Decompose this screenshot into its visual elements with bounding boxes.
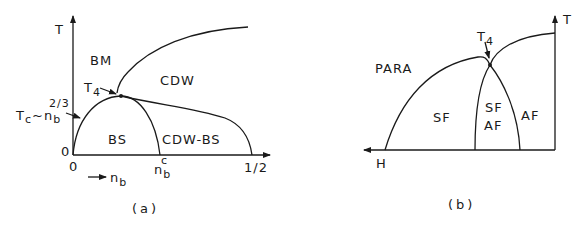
a-y-origin-label: 0 [61, 145, 70, 158]
a-region-cdw-bs: CDW-BS [162, 133, 221, 146]
a-caption: (a) [132, 202, 159, 215]
b-x-axis-label: H [376, 157, 387, 170]
a-region-bm: BM [90, 54, 112, 67]
a-region-cdw: CDW [160, 74, 195, 87]
b-tetracritical-label: T4 [477, 30, 494, 43]
a-tc-scaling-label: Tc~nb [16, 109, 61, 122]
b-region-sf-af-bottom: AF [484, 119, 502, 132]
b-region-af: AF [521, 109, 539, 122]
a-tetracritical-label: T4 [84, 81, 101, 94]
b-tetracritical-point [488, 63, 492, 67]
a-x-axis-label: nb [110, 171, 127, 184]
a-tc-exponent: 2/3 [49, 98, 70, 109]
a-y-axis-label: T [55, 23, 64, 36]
a-critical-density-sup: c [161, 155, 168, 166]
b-para-af-boundary [490, 33, 555, 65]
a-tetracritical-point [119, 94, 123, 98]
a-x-origin-label: 0 [69, 160, 78, 173]
a-x-end-label: 1/2 [244, 161, 268, 174]
b-region-sf: SF [433, 111, 451, 124]
b-region-sf-af-top: SF [485, 101, 503, 114]
b-caption: (b) [448, 198, 475, 211]
b-y-axis-label: T [563, 13, 572, 26]
a-region-bs: BS [108, 133, 127, 146]
b-region-para: PARA [375, 62, 412, 75]
